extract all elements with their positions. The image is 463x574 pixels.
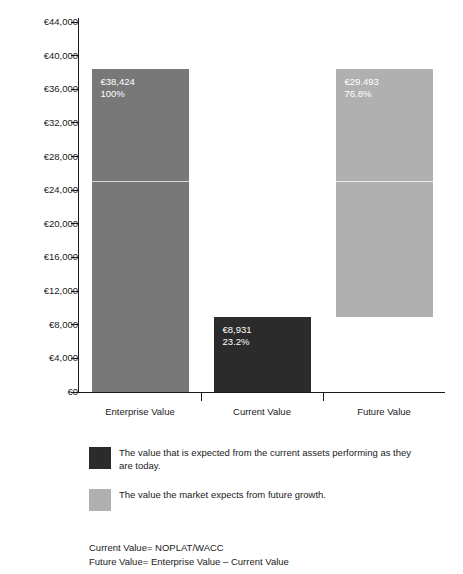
legend-label-current-assets: The value that is expected from the curr…: [119, 446, 419, 472]
y-axis-tick: €36,000: [0, 84, 78, 94]
bar-percent-text: 23.2%: [223, 336, 252, 349]
plot-area: €44,000€40,000€36,000€32,000€28,000€24,0…: [0, 0, 463, 440]
x-axis-label-enterprise-value: Enterprise Value: [70, 406, 210, 418]
bar-percent-text: 100%: [101, 88, 135, 101]
y-axis-tick-mark: [71, 55, 78, 56]
y-axis-tick: €24,000: [0, 185, 78, 195]
y-axis-tick-label: €0: [16, 387, 78, 397]
bar-percent-text: 76.8%: [345, 88, 379, 101]
bar-current-value: €8,93123.2%: [214, 317, 311, 392]
bar-future-value: €29.49376.8%: [336, 69, 433, 317]
y-axis-line: [78, 18, 79, 393]
y-axis-tick-label: €32,000: [16, 118, 78, 128]
y-axis-tick-label: €4,000: [16, 353, 78, 363]
y-axis-tick: €32,000: [0, 118, 78, 128]
y-axis-tick-label: €36,000: [16, 84, 78, 94]
y-axis-tick-mark: [71, 392, 78, 393]
bar-internal-divider: [336, 181, 433, 182]
y-axis-tick-mark: [71, 122, 78, 123]
y-axis-tick-mark: [71, 257, 78, 258]
x-axis-tick-mark: [323, 393, 324, 401]
bar-amount-text: €8,931: [223, 324, 252, 337]
y-axis-tick-label: €28,000: [16, 152, 78, 162]
y-axis-tick-label: €8,000: [16, 320, 78, 330]
legend-item: The value that is expected from the curr…: [89, 447, 419, 475]
y-axis-tick-label: €16,000: [16, 252, 78, 262]
value-breakdown-chart: €44,000€40,000€36,000€32,000€28,000€24,0…: [0, 0, 463, 574]
y-axis-tick-mark: [71, 223, 78, 224]
y-axis-tick-mark: [71, 358, 78, 359]
bar-amount-text: €38,424: [101, 76, 135, 89]
y-axis-tick: €20,000: [0, 219, 78, 229]
bar-value-label: €29.49376.8%: [345, 76, 379, 101]
bar-internal-divider: [92, 181, 189, 182]
x-axis-label-future-value: Future Value: [314, 406, 454, 418]
legend-item: The value the market expects from future…: [89, 489, 419, 517]
bar-value-label: €38,424100%: [101, 76, 135, 101]
bar-value-label: €8,93123.2%: [223, 324, 252, 349]
y-axis-tick-label: €44,000: [16, 17, 78, 27]
y-axis-tick: €44,000: [0, 17, 78, 27]
y-axis-tick-mark: [71, 324, 78, 325]
y-axis-tick: €16,000: [0, 252, 78, 262]
y-axis-tick-mark: [71, 190, 78, 191]
y-axis-tick: €40,000: [0, 51, 78, 61]
bar-enterprise-value: €38,424100%: [92, 69, 189, 392]
y-axis-tick-mark: [71, 89, 78, 90]
y-axis-tick: €0: [0, 387, 78, 397]
x-axis-label-current-value: Current Value: [192, 406, 332, 418]
x-axis-line: [78, 392, 445, 393]
y-axis-tick-label: €40,000: [16, 51, 78, 61]
y-axis-tick-label: €24,000: [16, 185, 78, 195]
y-axis-tick: €8,000: [0, 320, 78, 330]
y-axis-tick-mark: [71, 291, 78, 292]
chart-legend: The value that is expected from the curr…: [89, 447, 419, 531]
x-axis-tick-mark: [201, 393, 202, 401]
y-axis-tick-mark: [71, 22, 78, 23]
y-axis-tick-label: €12,000: [16, 286, 78, 296]
bar-amount-text: €29.493: [345, 76, 379, 89]
legend-swatch-current-assets: [89, 447, 111, 469]
legend-swatch-future-growth: [89, 489, 111, 511]
y-axis-tick-label: €20,000: [16, 219, 78, 229]
footnote-future-value: Future Value= Enterprise Value – Current…: [89, 555, 289, 569]
footnote-current-value: Current Value= NOPLAT/WACC: [89, 541, 289, 555]
chart-footnotes: Current Value= NOPLAT/WACC Future Value=…: [89, 541, 289, 568]
y-axis-tick: €12,000: [0, 286, 78, 296]
y-axis-tick: €28,000: [0, 152, 78, 162]
y-axis-tick-mark: [71, 156, 78, 157]
y-axis-tick: €4,000: [0, 353, 78, 363]
legend-label-future-growth: The value the market expects from future…: [119, 488, 419, 501]
